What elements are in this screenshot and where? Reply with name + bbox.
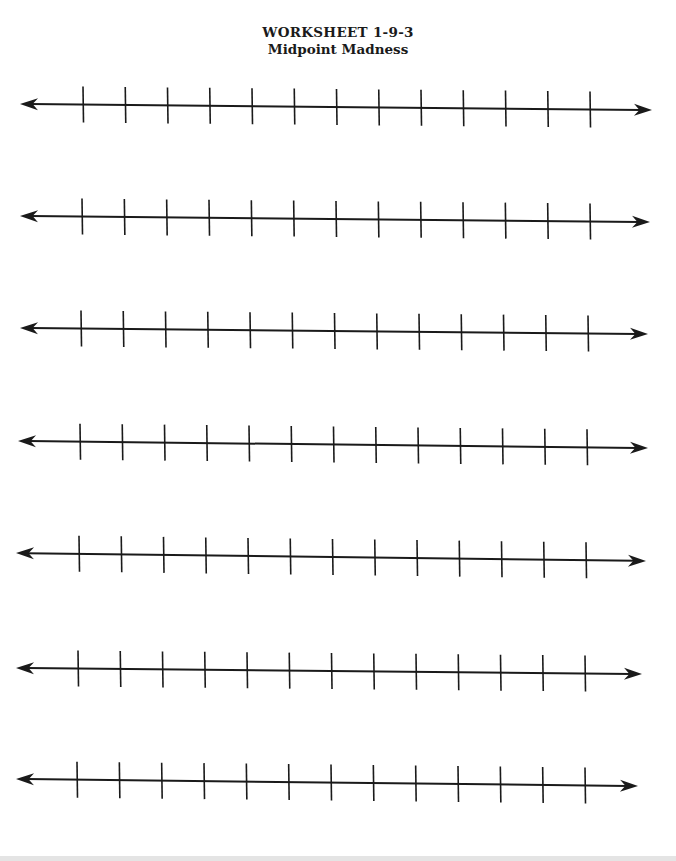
tick-mark: [506, 91, 507, 127]
tick-mark: [418, 427, 419, 463]
tick-mark: [167, 199, 168, 235]
tick-mark: [459, 541, 460, 577]
tick-mark: [332, 653, 333, 689]
tick-mark: [246, 764, 247, 800]
tick-mark: [81, 311, 82, 347]
tick-mark: [123, 311, 124, 347]
tick-mark: [548, 91, 549, 127]
number-line: [20, 311, 648, 352]
tick-mark: [121, 536, 122, 572]
tick-mark: [543, 655, 544, 691]
tick-mark: [416, 765, 417, 801]
number-line: [16, 651, 642, 692]
tick-mark: [377, 313, 378, 349]
number-line: [18, 424, 648, 466]
tick-mark: [210, 88, 211, 124]
tick-mark: [458, 654, 459, 690]
tick-mark: [548, 203, 549, 239]
number-line: [20, 199, 650, 240]
tick-mark: [120, 651, 121, 687]
tick-mark: [294, 201, 295, 237]
tick-mark: [252, 88, 253, 124]
tick-mark: [77, 762, 78, 798]
tick-mark: [463, 202, 464, 238]
tick-mark: [83, 87, 84, 123]
tick-mark: [336, 201, 337, 237]
tick-mark: [291, 426, 292, 462]
tick-mark: [421, 90, 422, 126]
tick-mark: [292, 313, 293, 349]
tick-mark: [251, 200, 252, 236]
tick-mark: [205, 652, 206, 688]
number-line: [16, 536, 646, 578]
tick-mark: [333, 539, 334, 575]
number-line: [16, 762, 638, 804]
tick-mark: [421, 202, 422, 238]
tick-mark: [206, 537, 207, 573]
tick-mark: [335, 313, 336, 349]
tick-mark: [375, 540, 376, 576]
tick-mark: [162, 763, 163, 799]
tick-mark: [168, 87, 169, 123]
tick-mark: [590, 91, 591, 127]
tick-mark: [165, 425, 166, 461]
tick-mark: [289, 653, 290, 689]
tick-mark: [250, 312, 251, 348]
tick-mark: [79, 536, 80, 572]
tick-mark: [416, 654, 417, 690]
tick-mark: [248, 538, 249, 574]
tick-mark: [585, 655, 586, 691]
tick-mark: [590, 203, 591, 239]
tick-mark: [501, 655, 502, 691]
tick-mark: [249, 426, 250, 462]
tick-mark: [204, 763, 205, 799]
tick-mark: [586, 542, 587, 578]
number-line-axis: [26, 779, 628, 786]
tick-mark: [209, 200, 210, 236]
tick-mark: [460, 428, 461, 464]
tick-mark: [417, 540, 418, 576]
tick-mark: [585, 767, 586, 803]
tick-mark: [247, 652, 248, 688]
tick-mark: [78, 651, 79, 687]
tick-mark: [163, 651, 164, 687]
number-line-axis: [26, 668, 632, 674]
number-lines-area: [0, 0, 676, 861]
tick-mark: [500, 766, 501, 802]
tick-mark: [419, 314, 420, 350]
tick-mark: [588, 315, 589, 351]
tick-mark: [503, 428, 504, 464]
tick-mark: [546, 315, 547, 351]
tick-mark: [82, 199, 83, 235]
tick-mark: [458, 766, 459, 802]
tick-mark: [290, 538, 291, 574]
tick-mark: [119, 762, 120, 798]
tick-mark: [504, 315, 505, 351]
tick-mark: [373, 765, 374, 801]
tick-mark: [379, 89, 380, 125]
tick-mark: [337, 89, 338, 125]
tick-mark: [378, 201, 379, 237]
tick-mark: [587, 429, 588, 465]
tick-mark: [289, 764, 290, 800]
tick-mark: [505, 203, 506, 239]
tick-mark: [208, 312, 209, 348]
tick-mark: [164, 537, 165, 573]
tick-mark: [376, 427, 377, 463]
tick-mark: [544, 542, 545, 578]
tick-mark: [545, 429, 546, 465]
tick-mark: [463, 90, 464, 126]
tick-mark: [543, 767, 544, 803]
tick-mark: [334, 427, 335, 463]
tick-mark: [125, 87, 126, 123]
tick-mark: [122, 424, 123, 460]
tick-mark: [294, 89, 295, 125]
tick-mark: [166, 311, 167, 347]
tick-mark: [374, 653, 375, 689]
number-line: [20, 87, 652, 128]
tick-mark: [207, 425, 208, 461]
tick-mark: [502, 541, 503, 577]
tick-mark: [124, 199, 125, 235]
tick-mark: [80, 424, 81, 460]
page-bottom-edge: [0, 856, 676, 861]
